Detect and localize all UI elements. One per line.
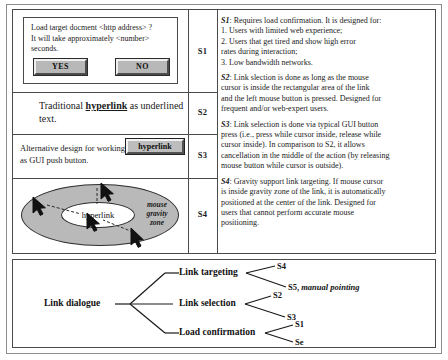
gravity-zone-illustration: hyperlink mouse gravity zone — [17, 180, 187, 252]
s2-text-before: Traditional — [39, 100, 86, 111]
tree-edge-confirmation-s1 — [265, 325, 293, 333]
s3-description-text: Alternative design for working as GUI pu… — [20, 143, 132, 166]
tree-leaf-s5-note: manual pointing — [301, 282, 359, 292]
hyperlink-push-button[interactable]: hyperlink — [126, 139, 184, 154]
tree-edge-selection-s3 — [245, 304, 285, 317]
scenario-label-s4: S4 — [188, 209, 217, 219]
mouse-cursor-icon-bottom-right — [131, 228, 143, 247]
gravity-arrows-svg — [17, 180, 187, 252]
tree-edge-selection-s2 — [245, 296, 271, 304]
scenario-label-s1: S1 — [188, 46, 217, 56]
dialog-message: Load target docment <http address> ? It … — [31, 23, 177, 55]
description-s4-intro: : Gravity support link targeting. If mou… — [229, 177, 383, 186]
attraction-path-left — [47, 205, 81, 214]
row-divider-s3-s4 — [13, 178, 217, 179]
description-s3-list: press (i.e., press while cursor inside, … — [221, 130, 433, 172]
dialog-message-line3: seconds. — [31, 44, 58, 53]
no-button[interactable]: NO — [116, 59, 169, 75]
scenario-label-s2: S2 — [188, 107, 217, 117]
list-item: users that cannot perform accurate mouse — [221, 208, 433, 218]
tree-branch-link-targeting: Link targeting — [179, 267, 238, 277]
scenario-descriptions-column: S1: Requires load confirmation. It is de… — [221, 16, 433, 234]
list-item: and the left mouse button is pressed. De… — [221, 94, 433, 104]
list-item: mouse button while cursor is outside). — [221, 161, 433, 171]
load-confirmation-dialog: Load target docment <http address> ? It … — [23, 17, 178, 84]
yes-button[interactable]: YES — [34, 59, 87, 75]
list-item: press (i.e., press while cursor inside, … — [221, 130, 433, 140]
mouse-cursor-icon-center — [87, 213, 99, 231]
list-item: cursor is inside the rectangular area of… — [221, 83, 433, 93]
description-s3: S3: Link selection is done via typical G… — [221, 120, 433, 172]
tree-edge-root-targeting — [130, 273, 165, 304]
dialog-message-line2: It will take approximately <number> — [31, 34, 149, 43]
list-item: 3. Low bandwidth networks. — [221, 58, 433, 68]
description-s2: S2: Link slection is done as long as the… — [221, 73, 433, 115]
column-divider — [217, 10, 218, 253]
tree-leaf-s5-code: S5, — [288, 282, 299, 292]
s2-description-text: Traditional hyperlink as underlined text… — [39, 99, 184, 125]
tree-branch-link-selection: Link selection — [179, 298, 236, 308]
tree-edge-confirmation-se — [265, 333, 293, 342]
tree-edge-targeting-s4 — [246, 266, 275, 273]
tree-branch-load-confirmation: Load confirmation — [179, 327, 255, 337]
description-s4-list: is inside gravity zone of the link, it i… — [221, 187, 433, 229]
mouse-cursor-icon-top — [101, 183, 113, 201]
tree-leaf-s5: S5, manual pointing — [288, 282, 360, 292]
figure-page: Load target docment <http address> ? It … — [0, 0, 448, 360]
description-s2-intro: : Link slection is done as long as the m… — [229, 73, 368, 82]
list-item: cancellation in the middle of the action… — [221, 151, 433, 161]
scenario-label-s3: S3 — [188, 150, 217, 160]
tree-leaf-s4: S4 — [277, 261, 286, 271]
tree-leaf-s2: S2 — [273, 290, 282, 300]
tree-root-label: Link dialogue — [44, 298, 100, 308]
link-dialogue-tree: Link dialogue Link targeting Link select… — [12, 259, 436, 348]
tree-leaf-se: Se — [295, 337, 304, 347]
s2-hyperlink-word[interactable]: hyperlink — [86, 100, 128, 111]
tree-edge-root-confirmation — [130, 304, 165, 333]
row-divider-s2-s3 — [13, 134, 217, 135]
description-s1: S1: Requires load confirmation. It is de… — [221, 16, 433, 68]
list-item: frequent and/or web-expert users. — [221, 104, 433, 114]
tree-edge-targeting-s5 — [246, 273, 286, 287]
list-item: 2. Users that get tired and show high er… — [221, 37, 433, 47]
mouse-cursor-icon-left — [33, 197, 45, 215]
description-s3-intro: : Link selection is done via typical GUI… — [229, 120, 378, 129]
description-s2-list: cursor is inside the rectangular area of… — [221, 83, 433, 114]
list-item: 1. Users with limited web experience; — [221, 26, 433, 36]
description-s1-intro: : Requires load confirmation. It is desi… — [229, 16, 381, 25]
list-item: positioning. — [221, 218, 433, 228]
attraction-path-right — [103, 220, 133, 232]
list-item: positioned at the center of the link. De… — [221, 198, 433, 208]
list-item: rates during interaction; — [221, 47, 433, 57]
dialog-message-line1: Load target docment <http address> ? — [31, 23, 152, 32]
scenarios-and-descriptions-region: Load target docment <http address> ? It … — [12, 9, 436, 254]
description-s1-list: 1. Users with limited web experience; 2.… — [221, 26, 433, 68]
row-divider-s1-s2 — [13, 92, 217, 93]
description-s4: S4: Gravity support link targeting. If m… — [221, 177, 433, 229]
list-item: is inside gravity zone of the link, it i… — [221, 187, 433, 197]
list-item: cursor inside). In comparison to S2, it … — [221, 140, 433, 150]
tree-leaf-s1: S1 — [295, 319, 304, 329]
